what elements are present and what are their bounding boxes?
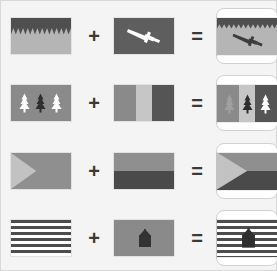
equation-row-1: + = xyxy=(1,5,277,67)
house-flag xyxy=(114,220,174,256)
equals-operator-3: = xyxy=(184,161,210,181)
band-bottom xyxy=(114,171,174,189)
row-4-operand-b xyxy=(114,220,174,256)
row-3-result xyxy=(216,143,277,199)
bicolor-chevron-flag xyxy=(217,153,277,190)
equals-operator-4: = xyxy=(184,228,210,248)
tree-icon-center xyxy=(242,94,253,114)
plus-operator-3: + xyxy=(81,161,107,181)
plus-operator-2: + xyxy=(81,93,107,113)
band-center xyxy=(136,85,153,121)
tree-icon-right xyxy=(51,93,62,113)
row-1-result xyxy=(216,8,277,64)
equals-operator-2: = xyxy=(184,93,210,113)
result-card xyxy=(216,75,277,131)
row-2-operand-b xyxy=(114,85,174,121)
tree-icon-center xyxy=(35,93,46,113)
zigzag-band-sword-flag xyxy=(217,18,277,55)
vertical-tricolor-flag xyxy=(114,85,174,121)
equation-row-3: + = xyxy=(1,140,277,202)
band-hoist xyxy=(114,85,136,121)
row-1-operand-a xyxy=(11,18,71,54)
tricolor-bands xyxy=(114,85,174,121)
band-fly xyxy=(152,85,174,121)
tree-icon-left xyxy=(224,94,235,114)
house-icon xyxy=(241,228,256,248)
zigzag-band-flag xyxy=(11,18,71,54)
horizontal-stripes-flag xyxy=(11,220,71,256)
row-2-result xyxy=(216,75,277,131)
tree-icon-right xyxy=(260,94,271,114)
tree-icon-left xyxy=(19,93,30,113)
stripe-pattern xyxy=(11,220,71,256)
house-icon xyxy=(138,229,152,247)
row-2-operand-a xyxy=(11,85,71,121)
plus-operator-4: + xyxy=(81,228,107,248)
tricolor-three-trees-flag xyxy=(217,85,277,122)
row-3-operand-a xyxy=(11,153,71,189)
row-1-operand-b xyxy=(114,18,174,54)
equals-operator-1: = xyxy=(184,26,210,46)
row-4-operand-a xyxy=(11,220,71,256)
striped-house-flag xyxy=(217,220,277,257)
chevron-flag xyxy=(11,153,71,189)
band-top xyxy=(114,153,174,171)
row-3-operand-b xyxy=(114,153,174,189)
result-card xyxy=(216,210,277,266)
result-card xyxy=(216,8,277,64)
sword-icon xyxy=(126,25,162,47)
sword-icon xyxy=(230,30,266,50)
three-trees-flag xyxy=(11,85,71,121)
flag-equation-sheet: + = xyxy=(0,0,277,271)
result-card xyxy=(216,143,277,199)
horizontal-bicolor-flag xyxy=(114,153,174,189)
equation-row-4: + = xyxy=(1,207,277,269)
sword-flag xyxy=(114,18,174,54)
row-4-result xyxy=(216,210,277,266)
plus-operator-1: + xyxy=(81,26,107,46)
equation-row-2: + = xyxy=(1,72,277,134)
